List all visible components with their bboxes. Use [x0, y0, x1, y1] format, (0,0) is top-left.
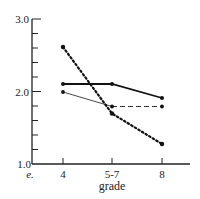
y-label-2: 2.0	[15, 86, 29, 98]
x-axis-title: grade	[99, 179, 126, 193]
y-label-3: 3.0	[15, 13, 29, 25]
series-thin-dashed	[61, 90, 164, 108]
line-chart: 3.0 2.0 1.0 e. 4 5-7 8 grade	[0, 0, 200, 199]
series-thick-solid	[61, 82, 164, 100]
y-ticks	[32, 19, 41, 150]
x-label-8: 8	[159, 168, 165, 180]
x-ticks	[63, 158, 162, 164]
corner-label: e.	[26, 168, 34, 180]
x-label-4: 4	[60, 168, 66, 180]
